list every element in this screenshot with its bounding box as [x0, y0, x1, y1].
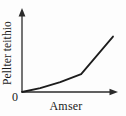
distance-time-plot: 0 Amser Pellter teithio — [0, 0, 126, 116]
origin-label: 0 — [12, 90, 18, 104]
distance-curve — [22, 37, 113, 92]
chart-figure: 0 Amser Pellter teithio — [0, 0, 126, 116]
x-axis-arrow-right-icon — [110, 89, 119, 96]
x-axis-label: Amser — [50, 99, 83, 113]
y-axis-label: Pellter teithio — [1, 21, 13, 85]
y-axis-arrow-up-icon — [19, 8, 26, 17]
